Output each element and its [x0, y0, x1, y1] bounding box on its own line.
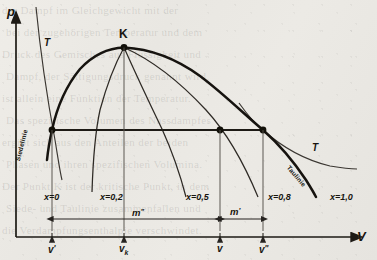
- mass-label-m-double-prime: m'': [132, 207, 144, 218]
- mass-label-m-prime: m': [230, 206, 240, 217]
- isotherm-right-label: T: [312, 142, 318, 153]
- x-axis-label: V: [357, 229, 366, 244]
- drop-lines: [52, 48, 263, 232]
- quality-line-x02: [92, 48, 124, 193]
- quality-label-x10: x=1,0: [330, 192, 353, 202]
- siedelinie-curve: [47, 48, 124, 161]
- isotherm-right-curve: [239, 103, 357, 169]
- quality-label-x08: x=0,8: [268, 192, 291, 202]
- volume-tick-label-v-k: vk: [119, 243, 128, 256]
- quality-label-x0: x=0: [44, 192, 59, 202]
- volume-tick-label-v-prime: v': [48, 243, 55, 255]
- isotherm-left-label: T: [44, 37, 50, 48]
- isotherm-left-curve: [36, 7, 62, 180]
- quality-line-x05: [124, 48, 186, 198]
- critical-point-label: K: [119, 27, 128, 41]
- volume-tick-label-v: v: [217, 243, 223, 254]
- quality-label-x05: x=0,5: [186, 192, 209, 202]
- quality-label-x02: x=0,2: [100, 192, 123, 202]
- volume-tick-label-v-double-prime: v'': [259, 243, 268, 255]
- pv-diagram-svg: [0, 0, 377, 260]
- y-axis-label: p: [7, 4, 15, 19]
